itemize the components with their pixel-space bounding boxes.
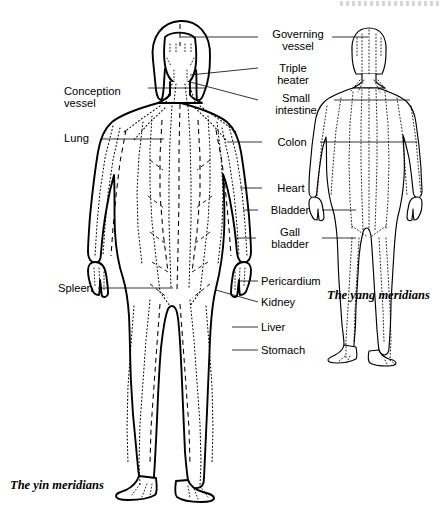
label-spleen: Spleen [58,282,146,294]
label-liver: Liver [261,321,311,333]
meridian-diagram: .ol{fill:#fff;stroke:#000;stroke-width:1… [0,0,442,510]
label-small-intestine: Small intestine [261,92,331,117]
diagram-artwork: .ol{fill:#fff;stroke:#000;stroke-width:1… [0,0,442,510]
label-conception-vessel: Conception vessel [64,85,146,110]
label-gall-bladder: Gall bladder [261,226,319,251]
label-bladder: Bladder [262,204,318,216]
label-lung: Lung [64,132,146,144]
label-kidney: Kidney [261,296,321,308]
label-triple-heater: Triple heater [263,62,323,87]
caption-yang-meridians: The yang meridians [327,288,430,303]
caption-yin-meridians: The yin meridians [10,478,104,493]
label-heart: Heart [268,182,314,194]
label-governing-vessel: Governing vessel [261,28,335,53]
yang-figure-group [309,28,422,366]
label-colon: Colon [268,136,316,148]
label-stomach: Stomach [261,344,327,356]
label-pericardium: Pericardium [261,275,345,287]
